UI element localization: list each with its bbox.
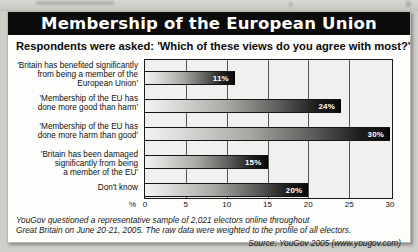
scan-artifact-center <box>288 2 293 7</box>
xtick-15: 15 <box>263 200 272 209</box>
page-title: Membership of the European Union <box>41 14 377 33</box>
xtick-30: 30 <box>386 200 395 209</box>
source-line: Source: YouGov 2005 (www.yougov.com) <box>16 238 401 248</box>
bar-value-3: 15% <box>245 158 262 167</box>
xtick-0: 0 <box>143 200 147 209</box>
chart-subtitle: Respondents were asked: 'Which of these … <box>16 37 404 54</box>
category-label-0: 'Britain has benefited significantly fro… <box>14 61 138 89</box>
category-label-2: 'Membership of the EU has done more harm… <box>14 122 138 140</box>
footer-line-1: YouGov questioned a representative sampl… <box>16 215 404 225</box>
plot-area: 11% 24% 30% 15% 20% <box>144 59 393 199</box>
bar-value-4: 20% <box>286 186 303 195</box>
axis-percent-symbol: % <box>129 200 136 209</box>
footer-line-2: Great Britain on June 20-21, 2005. The r… <box>16 225 404 235</box>
xtick-25: 25 <box>345 200 354 209</box>
chart-plot: 'Britain has benefited significantly fro… <box>16 59 402 211</box>
xtick-10: 10 <box>222 200 231 209</box>
scan-artifact-right <box>406 1 411 7</box>
bar-value-1: 24% <box>318 102 335 111</box>
bar-value-0: 11% <box>213 74 229 83</box>
bar-0: 11% <box>145 71 235 85</box>
footer-note: YouGov questioned a representative sampl… <box>16 215 404 236</box>
x-axis-ticks: 0 5 10 15 20 25 30 <box>144 200 393 212</box>
title-bar: Membership of the European Union <box>8 12 410 35</box>
category-label-3: 'Britain has been damaged significantly … <box>14 150 138 178</box>
bar-2: 30% <box>145 127 390 141</box>
page-top-edge <box>0 0 418 11</box>
bar-1: 24% <box>145 99 341 113</box>
figure-root: Membership of the European Union Respond… <box>0 0 418 252</box>
category-label-column: 'Britain has benefited significantly fro… <box>16 59 142 199</box>
scan-artifact-left <box>36 1 114 5</box>
category-label-1: 'Membership of the EU has done more good… <box>14 94 138 112</box>
chart-card: Membership of the European Union Respond… <box>7 11 411 243</box>
bar-value-2: 30% <box>368 130 385 139</box>
bar-4: 20% <box>145 183 308 197</box>
xtick-20: 20 <box>304 200 313 209</box>
category-label-4: Don't know <box>14 183 138 192</box>
xtick-5: 5 <box>184 200 188 209</box>
bar-3: 15% <box>145 155 268 169</box>
